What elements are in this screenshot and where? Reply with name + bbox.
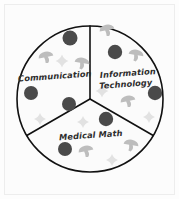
decoration-circle [24,86,38,100]
figure-canvas: Communication Information Technology Med… [0,0,179,199]
pie-chart-container: Communication Information Technology Med… [0,0,179,199]
decoration-circle [99,112,113,126]
decoration-circle [148,86,162,100]
decoration-circle [58,142,72,156]
decoration-circle [62,97,76,111]
decoration-circle [63,31,78,46]
decoration-circle [108,45,122,59]
pie-chart-svg: Communication Information Technology Med… [0,0,179,199]
